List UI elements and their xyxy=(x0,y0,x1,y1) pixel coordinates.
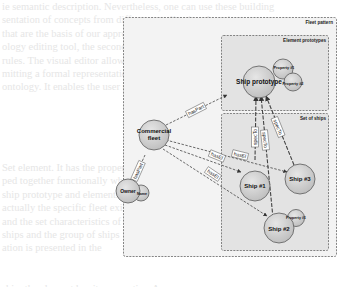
node-property-1-proto: Property #1 xyxy=(274,66,295,70)
svg-text:Ship prototype: Ship prototype xyxy=(236,78,282,86)
node-property-1-ship2: Property #1 xyxy=(286,216,306,220)
frame-label-set-of-ships: Set of ships xyxy=(300,116,326,121)
svg-text:fleet: fleet xyxy=(148,135,160,141)
svg-text:specTo: specTo xyxy=(252,129,258,145)
node-ship-3[interactable]: Ship #3 xyxy=(285,164,315,194)
fleet-pattern-diagram: Fleet pattern Element prototypes Set of … xyxy=(0,0,349,287)
node-ship-1[interactable]: Ship #1 xyxy=(240,171,270,201)
node-property-2-proto: Property #2 xyxy=(283,82,304,86)
node-name: Name xyxy=(137,192,147,196)
svg-text:Ship #1: Ship #1 xyxy=(244,183,266,189)
svg-text:Commercial: Commercial xyxy=(137,128,172,134)
svg-text:Ship #2: Ship #2 xyxy=(268,226,290,232)
svg-text:Ship #3: Ship #3 xyxy=(289,176,311,182)
frame-label-fleet-pattern: Fleet pattern xyxy=(305,20,333,25)
svg-text:Owner: Owner xyxy=(120,188,136,194)
edge-label-specto-ship1: specTo xyxy=(252,127,259,147)
frame-label-element-prototypes: Element prototypes xyxy=(283,38,326,43)
